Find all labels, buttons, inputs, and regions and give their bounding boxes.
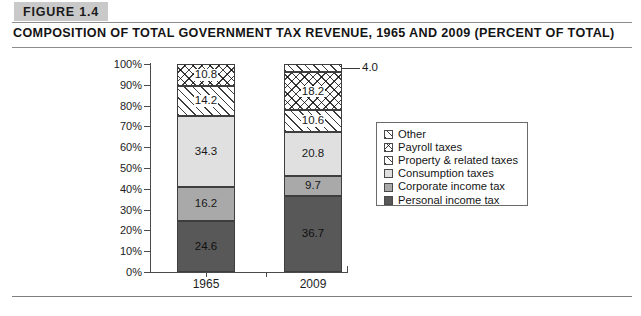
segment-value-label: 36.7 xyxy=(302,228,324,240)
y-tick-label: 30% xyxy=(96,204,142,216)
segment-corporate-income-tax-1965[interactable]: 16.2 xyxy=(177,187,235,221)
legend-item-consumption-taxes[interactable]: Consumption taxes xyxy=(384,168,527,181)
segment-personal-income-tax-2009[interactable]: 36.7 xyxy=(284,196,342,272)
segment-consumption-taxes-1965[interactable]: 34.3 xyxy=(177,116,235,187)
y-tick-label: 60% xyxy=(96,141,142,153)
legend-label: Other xyxy=(398,129,426,140)
segment-corporate-income-tax-2009[interactable]: 9.7 xyxy=(284,176,342,196)
x-tick-mark xyxy=(266,272,267,277)
legend-label: Payroll taxes xyxy=(398,142,462,153)
segment-personal-income-tax-1965[interactable]: 24.6 xyxy=(177,221,235,272)
legend-item-other[interactable]: Other xyxy=(384,128,527,141)
legend-label: Property & related taxes xyxy=(398,155,518,166)
legend-swatch-payroll-icon xyxy=(384,143,393,152)
segment-property-related-taxes-1965[interactable]: 14.2 xyxy=(177,86,235,116)
segment-value-label: 20.8 xyxy=(302,148,324,160)
y-tick-label: 20% xyxy=(96,224,142,236)
y-tick-label: 90% xyxy=(96,79,142,91)
segment-value-label: 10.6 xyxy=(301,115,325,127)
segment-value-label: 34.3 xyxy=(195,146,217,158)
legend-swatch-corporate-icon xyxy=(384,183,393,192)
x-axis-end-tick xyxy=(347,266,348,273)
bar-1965[interactable]: 24.6 16.2 34.3 14.2 10.8 xyxy=(177,64,235,272)
y-tick-label: 80% xyxy=(96,100,142,112)
segment-value-label: 10.8 xyxy=(194,69,218,81)
legend-item-corporate-income-tax[interactable]: Corporate income tax xyxy=(384,181,527,194)
callout-leader-line xyxy=(342,68,360,69)
y-tick-label: 100% xyxy=(96,58,142,70)
legend-item-payroll-taxes[interactable]: Payroll taxes xyxy=(384,141,527,154)
segment-value-label: 18.2 xyxy=(301,86,325,98)
x-axis-line xyxy=(150,272,348,273)
segment-value-label: 16.2 xyxy=(195,198,217,210)
segment-consumption-taxes-2009[interactable]: 20.8 xyxy=(284,132,342,175)
segment-value-label: 24.6 xyxy=(195,241,217,253)
legend-swatch-personal-icon xyxy=(384,196,393,205)
chart-legend: Other Payroll taxes Property & related t… xyxy=(376,122,528,206)
y-tick-label: 50% xyxy=(96,162,142,174)
y-axis-line xyxy=(150,63,151,273)
segment-other-2009[interactable] xyxy=(284,64,342,72)
legend-swatch-other-icon xyxy=(384,130,393,139)
y-tick-label: 40% xyxy=(96,183,142,195)
x-tick-label-2009: 2009 xyxy=(273,277,353,291)
legend-label: Personal income tax xyxy=(398,195,499,206)
segment-payroll-taxes-1965[interactable]: 10.8 xyxy=(177,64,235,87)
segment-value-label: 14.2 xyxy=(194,95,218,107)
legend-item-property-related-taxes[interactable]: Property & related taxes xyxy=(384,154,527,167)
chart-canvas: 100% 90% 80% 70% 60% 50% 40% 30% 20% 10%… xyxy=(0,0,641,316)
segment-value-label: 9.7 xyxy=(305,180,321,192)
legend-label: Corporate income tax xyxy=(398,181,505,192)
callout-value-label: 4.0 xyxy=(362,61,378,73)
legend-swatch-consumption-icon xyxy=(384,169,393,178)
legend-item-personal-income-tax[interactable]: Personal income tax xyxy=(384,194,527,207)
y-tick-label: 10% xyxy=(96,245,142,257)
legend-label: Consumption taxes xyxy=(398,168,494,179)
legend-swatch-property-icon xyxy=(384,156,393,165)
segment-property-related-taxes-2009[interactable]: 10.6 xyxy=(284,110,342,132)
segment-payroll-taxes-2009[interactable]: 18.2 xyxy=(284,72,342,110)
x-tick-label-1965: 1965 xyxy=(166,277,246,291)
y-tick-label: 70% xyxy=(96,120,142,132)
bar-2009[interactable]: 36.7 9.7 20.8 10.6 18.2 xyxy=(284,64,342,272)
y-tick-label: 0% xyxy=(96,266,142,278)
